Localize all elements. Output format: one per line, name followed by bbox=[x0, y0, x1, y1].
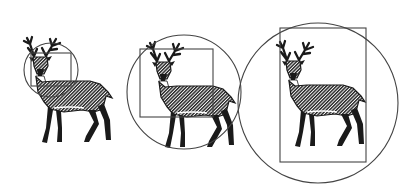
deer-figure bbox=[147, 42, 235, 148]
panel-small bbox=[24, 37, 112, 143]
deer-figure bbox=[277, 41, 365, 147]
panel-medium bbox=[127, 35, 241, 149]
panel-large bbox=[238, 23, 398, 183]
deer-bounding-diagram bbox=[0, 0, 420, 190]
diagram-canvas: Three deer figures with progressively la… bbox=[0, 0, 420, 190]
